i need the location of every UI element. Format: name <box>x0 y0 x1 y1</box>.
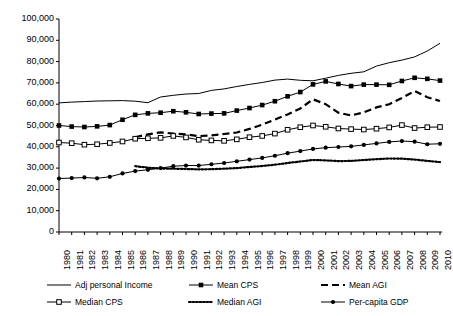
x-tick-label: 1981 <box>76 250 85 270</box>
series-line <box>135 159 440 170</box>
y-tick-label: 80,000 <box>2 57 54 66</box>
x-tick-label: 2005 <box>381 250 390 270</box>
legend-swatch-icon <box>320 297 346 307</box>
y-tick-label: 20,000 <box>2 184 54 193</box>
x-tick-label: 1990 <box>190 250 199 270</box>
x-tick-label: 1995 <box>254 250 263 270</box>
x-tick-label: 1999 <box>304 250 313 270</box>
legend-label: Median AGI <box>217 297 261 307</box>
x-tick-label: 2002 <box>342 250 351 270</box>
y-tick-label: 40,000 <box>2 142 54 151</box>
chart-series <box>57 75 443 129</box>
x-tick-label: 2001 <box>330 250 339 270</box>
legend-item[interactable]: Per-capita GDP <box>320 297 446 307</box>
x-tick-label: 1994 <box>241 250 250 270</box>
legend-item[interactable]: Mean CPS <box>188 280 320 290</box>
chart-series <box>57 123 443 147</box>
x-tick-label: 2008 <box>419 250 428 270</box>
x-tick-label: 1993 <box>228 250 237 270</box>
legend-swatch-icon <box>320 280 346 290</box>
x-tick-label: 2010 <box>444 250 453 270</box>
legend-swatch-icon <box>188 280 214 290</box>
x-tick-label: 1985 <box>127 250 136 270</box>
x-tick-label: 1991 <box>203 250 212 270</box>
x-tick-label: 1997 <box>279 250 288 270</box>
x-tick-label: 1996 <box>266 250 275 270</box>
y-tick-label: 70,000 <box>2 78 54 87</box>
chart-legend: Adj personal IncomeMean CPSMean AGIMedia… <box>46 276 446 310</box>
y-tick-label: 60,000 <box>2 99 54 108</box>
x-tick-label: 2000 <box>317 250 326 270</box>
chart-series <box>59 43 440 103</box>
legend-item[interactable]: Mean AGI <box>320 280 446 290</box>
legend-swatch-icon <box>46 280 72 290</box>
x-tick-label: 2007 <box>406 250 415 270</box>
x-tick-label: 1982 <box>88 250 97 270</box>
x-tick-label: 2006 <box>393 250 402 270</box>
series-line <box>59 78 440 127</box>
y-tick-label: 50,000 <box>2 121 54 130</box>
legend-swatch-icon <box>46 297 72 307</box>
x-tick-label: 1986 <box>139 250 148 270</box>
legend-label: Mean AGI <box>349 280 387 290</box>
legend-item[interactable]: Median AGI <box>188 297 320 307</box>
x-tick-label: 1998 <box>292 250 301 270</box>
x-tick-label: 1983 <box>101 250 110 270</box>
x-tick-label: 1988 <box>165 250 174 270</box>
chart-series <box>135 159 440 170</box>
legend-swatch-icon <box>188 297 214 307</box>
x-tick-label: 2004 <box>368 250 377 270</box>
legend-item[interactable]: Median CPS <box>46 297 188 307</box>
x-tick-label: 2009 <box>431 250 440 270</box>
chart-axes <box>59 19 442 232</box>
y-tick-label: 10,000 <box>2 206 54 215</box>
y-tick-label: 100,000 <box>2 14 54 23</box>
series-line <box>59 43 440 103</box>
legend-label: Median CPS <box>75 297 123 307</box>
y-tick-label: 0 <box>2 227 54 236</box>
legend-label: Per-capita GDP <box>349 297 409 307</box>
legend-label: Mean CPS <box>217 280 258 290</box>
legend-item[interactable]: Adj personal Income <box>46 280 188 290</box>
x-tick-label: 2003 <box>355 250 364 270</box>
x-tick-label: 1984 <box>114 250 123 270</box>
x-tick-label: 1987 <box>152 250 161 270</box>
y-tick-label: 90,000 <box>2 35 54 44</box>
x-tick-label: 1992 <box>215 250 224 270</box>
x-tick-label: 1989 <box>177 250 186 270</box>
legend-label: Adj personal Income <box>75 280 153 290</box>
x-tick-label: 1980 <box>63 250 72 270</box>
y-tick-label: 30,000 <box>2 163 54 172</box>
